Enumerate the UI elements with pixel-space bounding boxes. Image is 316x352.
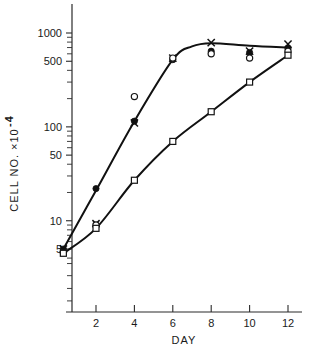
x-tick-label-12: 12 — [282, 317, 294, 329]
y-tick-label-10: 10 — [50, 215, 62, 227]
y-tick-label-50: 50 — [50, 149, 62, 161]
y-tick-label-500: 500 — [44, 55, 62, 67]
x-axis-ticks — [96, 305, 288, 312]
x-axis-title: DAY — [172, 334, 197, 346]
y-axis-title: CELL NO. ×10 -4 — [3, 115, 20, 212]
data-point-open-square — [285, 52, 291, 58]
data-point-open-square — [131, 177, 137, 183]
upper-growth-curve — [63, 43, 288, 249]
x-tick-label-8: 8 — [208, 317, 214, 329]
data-point-open-circle — [170, 55, 176, 61]
x-tick-label-10: 10 — [243, 317, 255, 329]
x-tick-label-4: 4 — [131, 317, 137, 329]
y-axis-minor-ticks — [67, 37, 72, 301]
series-markers — [60, 39, 292, 256]
data-point-open-square — [93, 225, 99, 231]
y-axis-tick-labels: 510501005001000 — [38, 27, 62, 255]
data-point-open-circle — [247, 55, 253, 61]
y-tick-label-1000: 1000 — [38, 27, 62, 39]
data-point-open-circle — [208, 51, 214, 57]
growth-curve-chart: 510501005001000 24681012 DAY CELL NO. ×1… — [0, 0, 316, 352]
data-point-open-square — [247, 79, 253, 85]
data-point-open-square — [170, 138, 176, 144]
x-axis-tick-labels: 24681012 — [93, 317, 294, 329]
x-tick-label-2: 2 — [93, 317, 99, 329]
data-point-open-square — [208, 109, 214, 115]
data-point-open-square — [60, 250, 66, 256]
x-tick-label-6: 6 — [170, 317, 176, 329]
y-tick-label-100: 100 — [44, 121, 62, 133]
y-axis-title-exponent: -4 — [3, 115, 15, 127]
chart-page: ... 510501005001000 24681012 DAY CELL NO… — [0, 0, 316, 352]
data-point-open-circle — [131, 94, 137, 100]
data-point-filled-circle — [93, 185, 99, 191]
y-axis-title-text: CELL NO. ×10 — [8, 128, 20, 211]
